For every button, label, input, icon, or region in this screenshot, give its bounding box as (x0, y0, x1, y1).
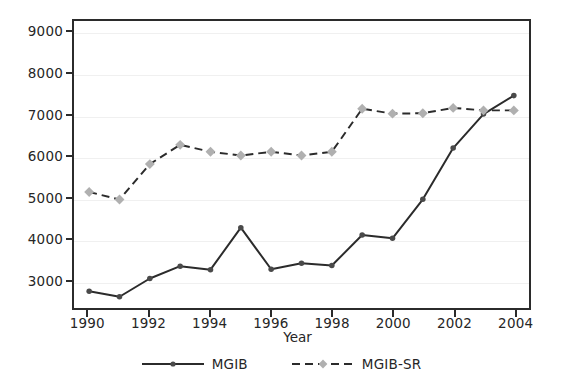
data-point (479, 105, 489, 115)
data-point (390, 236, 396, 242)
data-point (509, 105, 519, 115)
data-point (86, 288, 92, 294)
data-point (448, 103, 458, 113)
data-point (206, 147, 216, 157)
data-point (238, 225, 244, 231)
legend-item-mgib[interactable]: MGIB (142, 356, 248, 372)
data-point (268, 266, 274, 272)
data-point (115, 195, 125, 205)
data-point (388, 109, 398, 119)
plot-area (72, 19, 531, 310)
x-axis-tick-mark (209, 310, 211, 317)
data-point (299, 261, 305, 267)
x-axis-tick-mark (86, 310, 88, 317)
x-axis-tick-mark (148, 310, 150, 317)
data-point (145, 159, 155, 169)
data-point (84, 187, 94, 197)
legend-swatch-dashed-diamond (292, 357, 354, 371)
data-point (208, 267, 214, 273)
y-axis-tick-label: 4000 (28, 231, 63, 247)
series-lines (74, 21, 529, 308)
y-axis-tick-label: 7000 (28, 107, 63, 123)
x-axis-tick-mark (454, 310, 456, 317)
y-axis-tick-label: 8000 (28, 65, 63, 81)
series-line-mgib (89, 96, 514, 297)
y-axis-tick-label: 6000 (28, 148, 63, 164)
data-point (175, 140, 185, 150)
data-point (359, 232, 365, 238)
data-point (450, 145, 456, 151)
data-point (418, 108, 428, 118)
line-chart-figure: 3000400050006000700080009000 19901992199… (0, 0, 563, 388)
x-axis-title: Year (0, 329, 563, 345)
legend-label-mgib: MGIB (212, 356, 248, 372)
legend-swatch-solid-circle (142, 357, 204, 371)
y-axis-tick-label: 3000 (28, 273, 63, 289)
legend-label-mgib-sr: MGIB-SR (362, 356, 422, 372)
data-point (297, 151, 307, 161)
x-axis-tick-mark (392, 310, 394, 317)
data-point (147, 276, 153, 282)
data-point (329, 263, 335, 269)
data-point (117, 294, 123, 300)
data-point (511, 93, 517, 99)
data-point (266, 147, 276, 157)
chart-legend: MGIB MGIB-SR (0, 356, 563, 372)
y-axis-tick-label: 5000 (28, 190, 63, 206)
data-point (236, 151, 246, 161)
x-axis-tick-mark (331, 310, 333, 317)
data-point (420, 197, 426, 203)
x-axis-tick-mark (515, 310, 517, 317)
legend-item-mgib-sr[interactable]: MGIB-SR (292, 356, 422, 372)
x-axis-tick-mark (270, 310, 272, 317)
data-point (177, 263, 183, 269)
y-axis-tick-label: 9000 (28, 23, 63, 39)
